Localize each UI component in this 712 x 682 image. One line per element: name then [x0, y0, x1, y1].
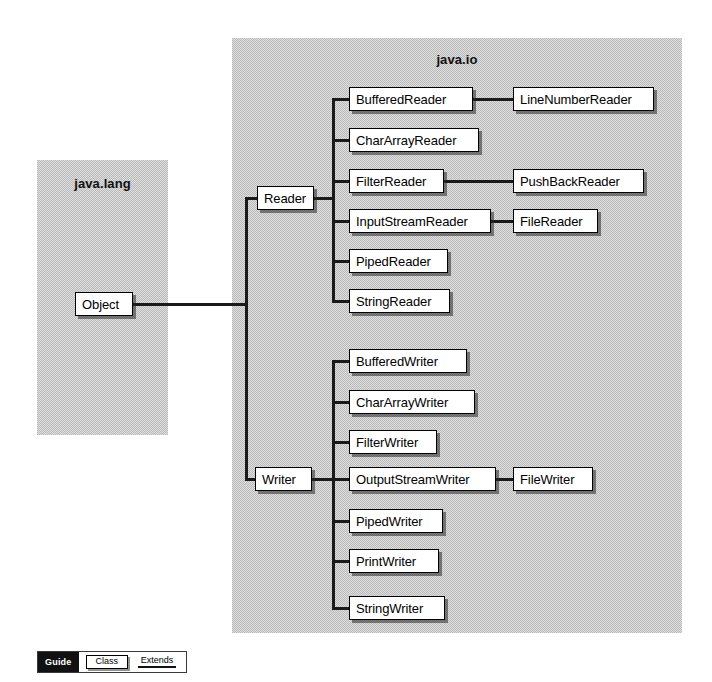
legend-extends-rule [138, 666, 176, 668]
edge-writer-branch-filter [332, 441, 350, 444]
package-title-java-io: java.io [232, 52, 682, 67]
class-node-object[interactable]: Object [75, 292, 133, 316]
edge-reader-branch-string [332, 300, 350, 303]
legend-extends-swatch: Extends [138, 656, 176, 669]
edge-filterreader-to-pushbackreader [443, 180, 514, 183]
edge-writer-spine [332, 360, 335, 609]
class-node-chararrayreader-label: CharArrayReader [356, 134, 456, 147]
class-node-chararrayreader[interactable]: CharArrayReader [349, 128, 479, 152]
class-node-printwriter-label: PrintWriter [356, 555, 416, 568]
class-node-stringwriter-label: StringWriter [356, 602, 423, 615]
class-node-outputstreamwriter[interactable]: OutputStreamWriter [349, 467, 496, 491]
class-node-pipedwriter[interactable]: PipedWriter [349, 509, 443, 533]
class-node-filereader-label: FileReader [520, 215, 583, 228]
class-node-reader[interactable]: Reader [257, 186, 314, 210]
class-node-pipedreader[interactable]: PipedReader [349, 249, 448, 273]
class-node-filereader[interactable]: FileReader [513, 209, 598, 233]
class-node-object-label: Object [82, 298, 119, 311]
class-node-linenumberreader[interactable]: LineNumberReader [513, 87, 654, 111]
class-node-chararraywriter-label: CharArrayWriter [356, 396, 448, 409]
edge-inputstreamreader-to-filereader [490, 220, 514, 223]
class-node-pipedreader-label: PipedReader [356, 255, 431, 268]
edge-outputstreamwriter-to-filewriter [495, 478, 514, 481]
class-node-filterreader[interactable]: FilterReader [349, 169, 444, 193]
class-node-reader-label: Reader [264, 192, 306, 205]
class-node-bufferedreader[interactable]: BufferedReader [349, 87, 473, 111]
class-node-filterwriter-label: FilterWriter [356, 436, 418, 449]
edge-reader-branch-inputstream [332, 220, 350, 223]
class-hierarchy-diagram: java.lang java.io Object Reader Writer [0, 0, 712, 682]
edge-writer-branch-print [332, 560, 350, 563]
edge-trunk-vertical [245, 198, 248, 481]
edge-reader-branch-chararray [332, 139, 350, 142]
edge-writer-branch-string [332, 607, 350, 610]
class-node-writer[interactable]: Writer [255, 467, 312, 491]
class-node-stringreader-label: StringReader [356, 295, 431, 308]
edge-reader-branch-buffered [332, 98, 350, 101]
legend-body: Class Extends [79, 652, 184, 672]
class-node-linenumberreader-label: LineNumberReader [520, 93, 632, 106]
class-node-filewriter[interactable]: FileWriter [513, 467, 593, 491]
class-node-bufferedwriter-label: BufferedWriter [356, 355, 438, 368]
legend-extends-label: Extends [141, 656, 174, 666]
class-node-outputstreamwriter-label: OutputStreamWriter [356, 473, 470, 486]
legend: Guide Class Extends [37, 651, 187, 674]
edge-reader-spine [332, 98, 335, 302]
class-node-pushbackreader-label: PushBackReader [520, 175, 620, 188]
edge-object-to-trunk [131, 303, 248, 306]
class-node-pushbackreader[interactable]: PushBackReader [513, 169, 644, 193]
class-node-inputstreamreader[interactable]: InputStreamReader [349, 209, 491, 233]
edge-writer-branch-chararray [332, 401, 350, 404]
class-node-filewriter-label: FileWriter [520, 473, 574, 486]
class-node-filterreader-label: FilterReader [356, 175, 426, 188]
class-node-bufferedwriter[interactable]: BufferedWriter [349, 349, 467, 373]
edge-writer-branch-piped [332, 520, 350, 523]
edge-writer-branch-buffered [332, 360, 350, 363]
class-node-chararraywriter[interactable]: CharArrayWriter [349, 390, 475, 414]
edge-writer-branch-outputstream [332, 478, 350, 481]
class-node-inputstreamreader-label: InputStreamReader [356, 215, 468, 228]
class-node-stringreader[interactable]: StringReader [349, 289, 450, 313]
edge-reader-branch-filter [332, 180, 350, 183]
edge-reader-branch-piped [332, 260, 350, 263]
class-node-pipedwriter-label: PipedWriter [356, 515, 423, 528]
class-node-printwriter[interactable]: PrintWriter [349, 549, 439, 573]
class-node-writer-label: Writer [262, 473, 296, 486]
class-node-bufferedreader-label: BufferedReader [356, 93, 446, 106]
class-node-filterwriter[interactable]: FilterWriter [349, 430, 437, 454]
class-node-stringwriter[interactable]: StringWriter [349, 596, 445, 620]
legend-class-swatch: Class [86, 655, 129, 669]
package-title-java-lang: java.lang [37, 176, 168, 191]
legend-strip: Guide Class Extends [37, 651, 187, 673]
edge-bufferedreader-to-linenumberreader [472, 98, 514, 101]
legend-guide-label: Guide [38, 652, 79, 672]
